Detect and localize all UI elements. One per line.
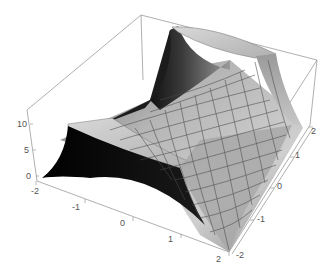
tick-label: -2 [31, 186, 39, 196]
tick-label: -2 [236, 250, 244, 260]
tick-label: 2 [311, 126, 316, 136]
tick-label: 0 [277, 181, 282, 191]
tick-label: 0 [120, 218, 125, 228]
tick-label: -1 [257, 214, 265, 224]
vertical-axis-labels: 0 5 10 [17, 119, 31, 181]
tick-label: 2 [216, 254, 221, 264]
surface-plot: -2 -1 0 1 2 -2 -1 0 1 2 0 5 10 [0, 0, 331, 280]
tick-label: 0 [26, 171, 31, 181]
tick-label: 1 [295, 150, 300, 160]
tick-label: 5 [24, 145, 29, 155]
tick-label: 1 [168, 234, 173, 244]
tick-label: -1 [72, 202, 80, 212]
tick-label: 10 [17, 119, 27, 129]
